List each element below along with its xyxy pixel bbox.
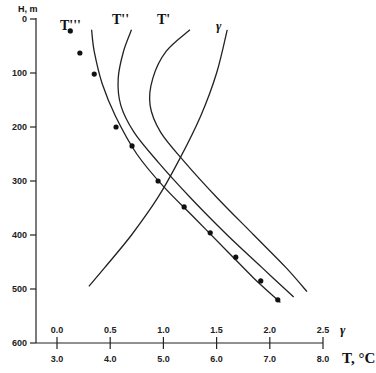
- observed-data-point: [77, 50, 82, 55]
- observed-data-point: [275, 297, 280, 302]
- y-tick-label: 600: [12, 338, 27, 348]
- curve-t-triple-prime: [92, 30, 281, 303]
- y-tick-label: 300: [12, 176, 27, 186]
- observed-data-point: [92, 71, 97, 76]
- x-tick-label-temperature: 3.0: [51, 354, 64, 364]
- y-tick-label: 0: [22, 14, 27, 24]
- x-tick-label-temperature: 7.0: [264, 354, 277, 364]
- x-tick-label-temperature: 5.0: [157, 354, 170, 364]
- curve-label-t-double-prime: T'': [112, 12, 129, 27]
- y-tick-label: 500: [12, 284, 27, 294]
- x-axis-title-gamma: γ: [340, 322, 346, 337]
- observed-data-point: [113, 124, 118, 129]
- observed-data-point: [182, 204, 187, 209]
- x-tick-label-gamma: 1.0: [157, 325, 170, 335]
- observed-markers: [68, 28, 281, 302]
- observed-data-point: [233, 255, 238, 260]
- curve-label-gamma: γ: [216, 18, 222, 33]
- x-tick-label-gamma: 1.5: [210, 325, 223, 335]
- x-tick-label-temperature: 6.0: [210, 354, 223, 364]
- observed-data-point: [155, 178, 160, 183]
- y-axis-ticks: 0100200300400500600: [12, 14, 36, 348]
- curve-label-t-triple-prime: T''': [60, 18, 81, 33]
- y-tick-label: 400: [12, 230, 27, 240]
- x-tick-label-gamma: 0.5: [104, 325, 117, 335]
- x-tick-label-gamma: 2.0: [264, 325, 277, 335]
- x-tick-label-gamma: 0.0: [51, 325, 64, 335]
- x-tick-label-temperature: 4.0: [104, 354, 117, 364]
- x-tick-label-gamma: 2.5: [317, 325, 330, 335]
- x-axis-title-text: T, °C: [342, 350, 375, 366]
- curves-group: [89, 30, 307, 303]
- observed-data-point: [258, 278, 263, 283]
- x-axis-ticks: 3.00.04.00.55.01.06.01.57.02.08.02.5: [51, 325, 330, 364]
- observed-data-point: [129, 143, 134, 148]
- y-tick-label: 200: [12, 122, 27, 132]
- y-axis-title: H, m: [18, 4, 38, 14]
- curve-gamma: [89, 30, 227, 287]
- x-tick-label-temperature: 8.0: [317, 354, 330, 364]
- curve-label-t-prime: T': [157, 12, 170, 27]
- y-tick-label: 100: [12, 68, 27, 78]
- observed-data-point: [208, 230, 213, 235]
- depth-profile-chart: 0100200300400500600 3.00.04.00.55.01.06.…: [0, 0, 376, 373]
- x-axis-title-temperature: T, °C: [342, 350, 375, 366]
